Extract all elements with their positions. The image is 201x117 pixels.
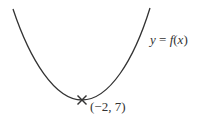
parabola-curve: [13, 8, 150, 100]
vertex-label: (−2, 7): [90, 100, 126, 113]
curve-label: y = f(x): [150, 33, 188, 46]
